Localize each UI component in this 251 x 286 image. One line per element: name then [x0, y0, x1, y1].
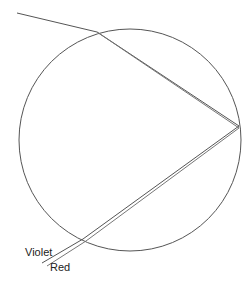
violet-ray-inside-2 [83, 126, 239, 239]
raindrop-circle [19, 29, 241, 251]
raindrop-diagram [0, 0, 251, 286]
violet-label: Violet [25, 247, 52, 258]
incoming-ray [17, 13, 97, 32]
red-ray-inside-1 [97, 32, 239, 128]
red-label: Red [50, 262, 70, 273]
red-ray-inside-2 [86, 128, 239, 241]
